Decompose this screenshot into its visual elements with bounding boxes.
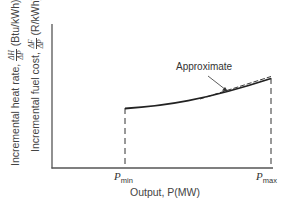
pmax-tick-label: Pmax xyxy=(256,170,277,185)
approximate-leader xyxy=(208,76,226,90)
y-label1-suffix: (Btu/kWh) or xyxy=(9,0,21,49)
y-axis-label-line2: Incremental fuel cost, ΔFΔP (R/kWh) xyxy=(28,0,45,152)
approximate-line xyxy=(200,77,271,100)
pmin-tick-label: Pmin xyxy=(114,170,133,185)
frac-den: ΔP xyxy=(17,49,25,61)
y-label2-prefix: Incremental fuel cost, xyxy=(29,49,41,152)
y-label2-suffix: (R/kWh) xyxy=(29,0,41,38)
y-axis-label-line1: Incremental heat rate, ΔHΔP (Btu/kWh) or xyxy=(8,0,25,166)
y-label1-prefix: Incremental heat rate, xyxy=(9,61,21,166)
x-axis-label: Output, P(MW) xyxy=(130,186,200,198)
delta-h-over-delta-p: ΔHΔP xyxy=(8,49,25,61)
pmax-sub: max xyxy=(263,176,277,185)
delta-f-over-delta-p: ΔFΔP xyxy=(28,38,45,49)
frac-den: ΔP xyxy=(37,38,45,49)
pmin-sub: min xyxy=(121,176,133,185)
approximate-label: Approximate xyxy=(176,61,232,72)
pmin-main: P xyxy=(114,170,121,182)
pmax-main: P xyxy=(256,170,263,182)
